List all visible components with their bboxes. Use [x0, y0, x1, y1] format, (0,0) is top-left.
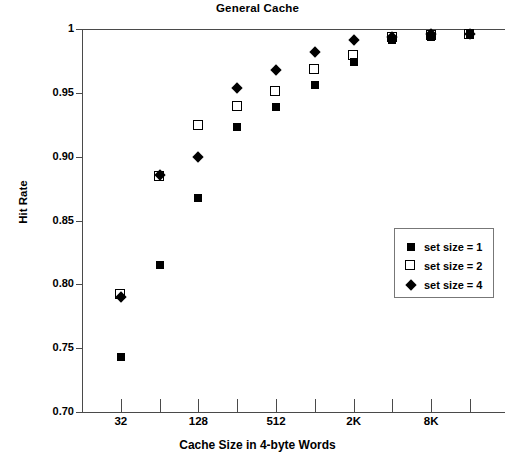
- x-tick-mark: [392, 399, 393, 412]
- x-tick-label: 128: [168, 415, 228, 427]
- data-point: [194, 194, 202, 202]
- legend-label: set size = 2: [424, 260, 482, 272]
- y-tick-label: 0.80: [34, 278, 74, 289]
- y-tick-label: 0.70: [34, 406, 74, 417]
- chart-title: General Cache: [0, 2, 515, 14]
- x-tick-mark: [121, 399, 122, 412]
- x-tick-label: 32: [91, 415, 151, 427]
- y-tick-label: 0.85: [34, 215, 74, 226]
- y-tick-mark: [76, 221, 82, 222]
- legend-label: set size = 4: [424, 279, 482, 291]
- data-point: [311, 81, 319, 89]
- open-square-marker: [405, 260, 415, 270]
- x-tick-mark: [198, 399, 199, 412]
- data-point: [156, 261, 164, 269]
- x-tick-label: 2K: [324, 415, 384, 427]
- data-point: [270, 86, 280, 96]
- data-point: [350, 58, 358, 66]
- y-tick-label: 1: [34, 23, 74, 34]
- legend-item: set size = 4: [405, 276, 482, 294]
- x-tick-mark: [237, 399, 238, 412]
- data-point: [193, 120, 203, 130]
- data-point: [272, 103, 280, 111]
- y-axis-title: Hit Rate: [17, 162, 29, 242]
- legend-item: set size = 1: [405, 238, 482, 256]
- data-point: [193, 151, 204, 162]
- legend-marker-icon: [405, 261, 416, 272]
- data-point: [270, 64, 281, 75]
- data-point: [117, 353, 125, 361]
- y-tick-mark: [76, 157, 82, 158]
- y-tick-label: 0.90: [34, 151, 74, 162]
- x-tick-label: 8K: [401, 415, 461, 427]
- data-point: [233, 123, 241, 131]
- legend-marker-icon: [405, 242, 416, 253]
- data-point: [348, 35, 359, 46]
- x-tick-mark: [315, 399, 316, 412]
- filled-diamond-marker: [405, 279, 416, 290]
- y-tick-mark: [76, 93, 82, 94]
- x-tick-mark: [82, 399, 83, 412]
- data-point: [232, 101, 242, 111]
- y-axis-line: [82, 29, 83, 413]
- x-axis-title: Cache Size in 4-byte Words: [0, 438, 515, 452]
- filled-square-marker: [407, 243, 415, 251]
- x-tick-mark: [431, 399, 432, 412]
- y-tick-mark: [76, 348, 82, 349]
- legend-marker-icon: [405, 280, 416, 291]
- x-axis-line: [82, 412, 505, 413]
- y-tick-mark: [76, 29, 82, 30]
- y-tick-label: 0.95: [34, 87, 74, 98]
- y-tick-mark: [76, 412, 82, 413]
- data-point: [309, 46, 320, 57]
- x-tick-mark: [470, 399, 471, 412]
- x-tick-mark: [160, 399, 161, 412]
- chart-legend: set size = 1set size = 2set size = 4: [394, 228, 494, 298]
- chart-figure: General Cache Hit Rate 0.700.750.800.850…: [0, 0, 515, 461]
- legend-item: set size = 2: [405, 257, 482, 275]
- y-tick-label: 0.75: [34, 342, 74, 353]
- plot-top-border: [82, 29, 505, 30]
- x-tick-label: 512: [246, 415, 306, 427]
- y-tick-mark: [76, 284, 82, 285]
- legend-label: set size = 1: [424, 241, 482, 253]
- x-tick-mark: [276, 399, 277, 412]
- data-point: [309, 64, 319, 74]
- data-point: [232, 82, 243, 93]
- x-tick-mark: [354, 399, 355, 412]
